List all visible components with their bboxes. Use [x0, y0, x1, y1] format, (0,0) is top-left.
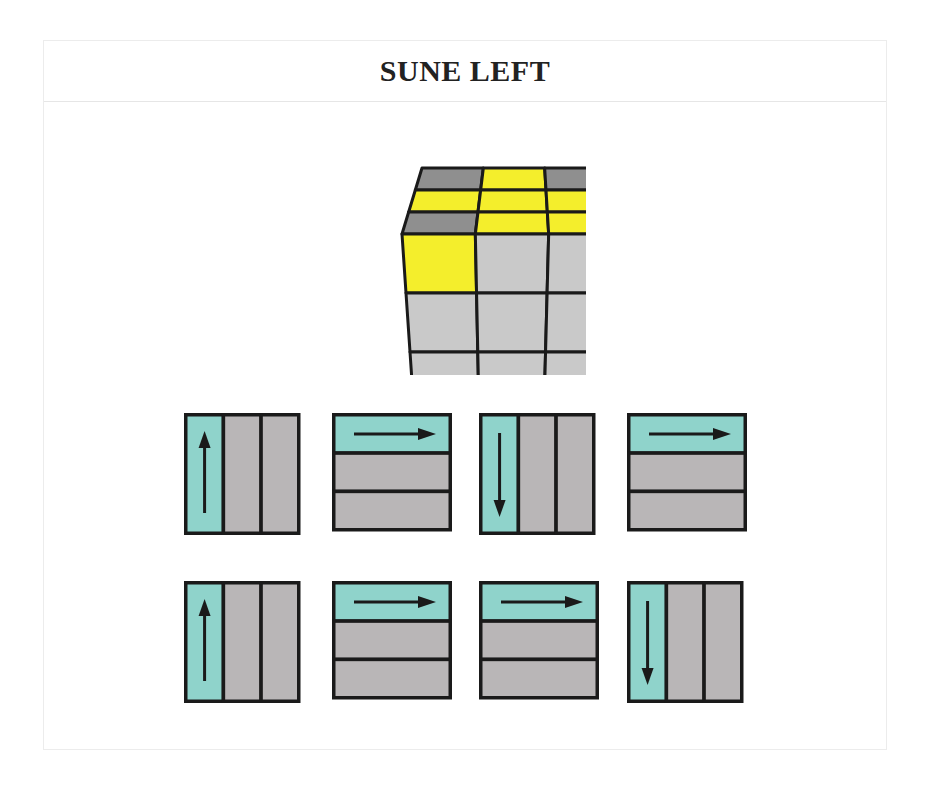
arrow-right-icon [627, 413, 747, 535]
front-sticker [410, 352, 479, 375]
front-sticker [546, 293, 586, 352]
top-sticker [481, 168, 546, 190]
top-sticker [546, 190, 586, 212]
move-diagram-3 [479, 413, 599, 535]
arrow-down-icon [627, 581, 747, 703]
top-sticker [415, 168, 483, 190]
cube-icon [356, 125, 586, 375]
title-band: SUNE LEFT [44, 41, 886, 102]
front-sticker [478, 352, 546, 375]
top-sticker [409, 190, 481, 212]
top-sticker [547, 212, 586, 234]
move-diagram-5 [184, 581, 304, 703]
move-diagram-4 [627, 413, 747, 535]
move-diagram-1 [184, 413, 304, 535]
move-diagram-8 [627, 581, 747, 703]
move-diagram-7 [479, 581, 599, 703]
front-sticker [475, 234, 548, 293]
arrow-right-icon [332, 581, 452, 703]
top-sticker [475, 212, 548, 234]
arrow-up-icon [184, 413, 304, 535]
move-diagram-2 [332, 413, 452, 535]
front-sticker [406, 293, 478, 352]
front-sticker [402, 234, 477, 293]
top-sticker [402, 212, 478, 234]
algorithm-card: SUNE LEFT [43, 40, 887, 750]
arrow-right-icon [332, 413, 452, 535]
arrow-up-icon [184, 581, 304, 703]
top-sticker [545, 168, 586, 190]
cube-diagram [356, 125, 586, 375]
move-diagram-6 [332, 581, 452, 703]
top-sticker [478, 190, 547, 212]
page-title: SUNE LEFT [380, 54, 550, 88]
front-sticker [544, 352, 586, 375]
front-sticker [477, 293, 548, 352]
arrow-right-icon [479, 581, 599, 703]
front-sticker [547, 234, 586, 293]
arrow-down-icon [479, 413, 599, 535]
